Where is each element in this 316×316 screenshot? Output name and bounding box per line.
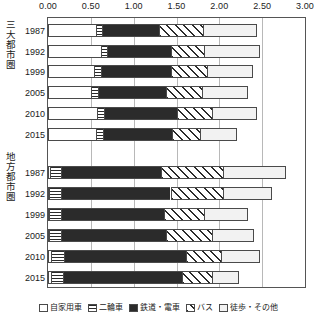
- bar-segment-white: [48, 86, 91, 99]
- bar-row: [0, 271, 316, 284]
- bar-segment-dots: [221, 250, 260, 263]
- bar-row: [0, 187, 316, 200]
- legend-label-2: 鉄道・電車: [140, 303, 180, 312]
- legend-label-4: 徒歩・その他: [230, 303, 278, 312]
- x-tick-label-2: 1.00: [125, 1, 143, 12]
- legend-label-1: 二輪車: [99, 303, 123, 312]
- bar-segment-solid-black: [103, 128, 172, 141]
- bar-segment-white: [48, 24, 96, 37]
- bar-segment-horizontal-lines: [91, 86, 98, 99]
- bar-segment-diagonal-lines: [164, 208, 204, 221]
- bar-segment-solid-black: [61, 229, 166, 242]
- bar-segment-horizontal-lines: [96, 128, 103, 141]
- gridline-5: [262, 18, 263, 287]
- gridline-1: [91, 18, 92, 287]
- bar-segment-solid-black: [104, 107, 178, 120]
- gridline-3: [177, 18, 178, 287]
- bar-segment-dots: [204, 45, 260, 58]
- x-tick-label-4: 2.00: [210, 1, 228, 12]
- bar-row: [0, 45, 316, 58]
- x-tick-label-5: 2.50: [253, 1, 271, 12]
- bar-segment-diagonal-lines: [171, 65, 207, 78]
- bar-segment-solid-black: [63, 271, 181, 284]
- legend-label-0: 自家用車: [50, 303, 82, 312]
- x-axis-top: 0.000.501.001.502.002.503.00: [0, 0, 316, 17]
- stacked-bar-chart: 0.000.501.001.502.002.503.00 三大都市圏 地方都市圏…: [0, 0, 316, 316]
- bar-segment-solid-black: [64, 250, 186, 263]
- gridline-4: [219, 18, 220, 287]
- legend-swatch-white: [39, 304, 48, 312]
- x-tick-label-3: 1.50: [168, 1, 186, 12]
- bar-row: [0, 128, 316, 141]
- bar-segment-horizontal-lines: [49, 187, 61, 200]
- bar-segment-dots: [200, 128, 238, 141]
- bar-row: [0, 229, 316, 242]
- bar-segment-solid-black: [107, 45, 171, 58]
- bar-segment-white: [48, 65, 94, 78]
- bar-segment-horizontal-lines: [49, 208, 61, 221]
- bar-segment-dots: [203, 24, 257, 37]
- bar-segment-dots: [223, 166, 286, 179]
- bar-segment-solid-black: [98, 86, 167, 99]
- bar-row: [0, 65, 316, 78]
- bar-segment-solid-black: [61, 187, 171, 200]
- legend-swatch-horizontal-lines: [88, 304, 97, 312]
- bar-row: [0, 24, 316, 37]
- bar-segment-dots: [212, 271, 239, 284]
- bar-segment-horizontal-lines: [49, 229, 61, 242]
- bar-segment-white: [48, 107, 97, 120]
- bar-segment-diagonal-lines: [186, 250, 221, 263]
- gridline-2: [134, 18, 135, 287]
- bar-segment-diagonal-lines: [171, 45, 204, 58]
- legend-label-3: バス: [197, 303, 213, 312]
- bar-segment-diagonal-lines: [171, 187, 223, 200]
- x-tick-label-0: 0.00: [39, 1, 57, 12]
- bar-segment-white: [48, 45, 101, 58]
- bar-segment-solid-black: [102, 24, 159, 37]
- bar-segment-dots: [204, 208, 248, 221]
- legend-item-0: 自家用車: [39, 303, 82, 312]
- bar-segment-dots: [202, 86, 247, 99]
- legend-item-2: 鉄道・電車: [129, 303, 180, 312]
- bar-segment-solid-black: [101, 65, 171, 78]
- bar-segment-white: [48, 128, 96, 141]
- x-tick-label-6: 3.00: [296, 1, 314, 12]
- bar-segment-diagonal-lines: [182, 271, 212, 284]
- bar-segment-horizontal-lines: [94, 65, 101, 78]
- bar-row: [0, 107, 316, 120]
- bar-segment-diagonal-lines: [177, 107, 211, 120]
- legend-swatch-dots: [219, 304, 228, 312]
- bar-segment-dots: [212, 229, 255, 242]
- bar-segment-diagonal-lines: [166, 229, 211, 242]
- legend-swatch-solid-black: [129, 304, 138, 312]
- bar-segment-diagonal-lines: [159, 24, 203, 37]
- x-tick-label-1: 0.50: [82, 1, 100, 12]
- legend-item-4: 徒歩・その他: [219, 303, 278, 312]
- bar-segment-horizontal-lines: [51, 250, 64, 263]
- bar-segment-solid-black: [61, 166, 161, 179]
- bar-segment-horizontal-lines: [50, 166, 61, 179]
- bar-row: [0, 250, 316, 263]
- bar-segment-dots: [212, 107, 257, 120]
- bar-segment-diagonal-lines: [166, 86, 202, 99]
- legend-item-3: バス: [186, 303, 213, 312]
- chart-legend: 自家用車二輪車鉄道・電車バス徒歩・その他: [0, 303, 316, 316]
- bar-segment-diagonal-lines: [172, 128, 199, 141]
- legend-swatch-diagonal-lines: [186, 304, 195, 312]
- bar-segment-solid-black: [61, 208, 164, 221]
- bar-segment-diagonal-lines: [161, 166, 223, 179]
- bar-row: [0, 86, 316, 99]
- bar-row: [0, 166, 316, 179]
- bar-segment-dots: [223, 187, 272, 200]
- legend-item-1: 二輪車: [88, 303, 123, 312]
- bar-row: [0, 208, 316, 221]
- bar-segment-horizontal-lines: [51, 271, 63, 284]
- bar-segment-horizontal-lines: [97, 107, 104, 120]
- bar-segment-dots: [207, 65, 252, 78]
